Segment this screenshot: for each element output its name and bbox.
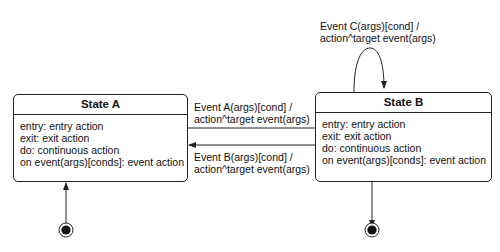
transition-c-loop [354,48,384,92]
state-a[interactable]: State A entry: entry action exit: exit a… [13,94,188,182]
state-b-body: entry: entry action exit: exit action do… [316,113,491,171]
state-b-on-event: on event(args)[conds]: event action [322,154,485,166]
transition-a-action: action^target event(args) [194,113,310,125]
transition-c-trigger: Event C(args)[cond] / [320,20,436,32]
state-a-entry: entry: entry action [20,120,181,132]
state-a-on-event: on event(args)[conds]: event action [20,156,181,168]
state-a-exit: exit: exit action [20,132,181,144]
transition-b-action: action^target event(args) [194,163,310,175]
state-a-title: State A [14,95,187,115]
transition-c-label: Event C(args)[cond] / action^target even… [320,20,436,44]
state-b[interactable]: State B entry: entry action exit: exit a… [315,92,492,182]
state-b-do: do: continuous action [322,142,485,154]
initial-state-icon [59,223,73,237]
transition-b-label: Event B(args)[cond] / action^target even… [194,151,310,175]
state-b-title: State B [316,93,491,113]
transition-b-trigger: Event B(args)[cond] / [194,151,310,163]
transition-a-trigger: Event A(args)[cond] / [194,101,310,113]
state-a-body: entry: entry action exit: exit action do… [14,115,187,173]
final-state-icon [365,223,379,237]
state-a-do: do: continuous action [20,144,181,156]
transition-c-action: action^target event(args) [320,32,436,44]
transition-a-label: Event A(args)[cond] / action^target even… [194,101,310,125]
state-b-exit: exit: exit action [322,130,485,142]
state-b-entry: entry: entry action [322,118,485,130]
